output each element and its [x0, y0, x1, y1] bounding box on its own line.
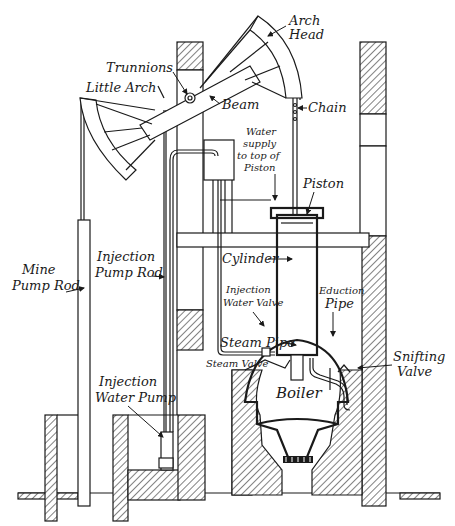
svg-text:to top of: to top of [237, 150, 282, 161]
svg-text:Pipe: Pipe [324, 296, 354, 311]
svg-text:Injection: Injection [98, 374, 157, 389]
injection-supply-pipe [218, 180, 275, 356]
label-cylinder: Cylinder [222, 251, 292, 266]
mine-pump-rod [78, 100, 90, 506]
svg-text:Mine: Mine [21, 262, 56, 277]
svg-text:Pump Rod: Pump Rod [94, 265, 163, 280]
svg-text:Injection: Injection [225, 284, 271, 295]
svg-text:Chain: Chain [308, 100, 347, 115]
svg-text:Head: Head [288, 27, 324, 42]
svg-text:Trunnions: Trunnions [106, 60, 173, 75]
svg-text:Water: Water [246, 126, 277, 137]
svg-text:Snifting: Snifting [393, 349, 445, 364]
svg-text:Little Arch: Little Arch [85, 80, 156, 95]
svg-text:Injection: Injection [96, 249, 155, 264]
svg-text:Steam Pipe: Steam Pipe [220, 335, 295, 350]
svg-text:Water Valve: Water Valve [223, 297, 283, 308]
label-injection-pump-rod: Injection Pump Rod [94, 249, 164, 280]
floor-beam [177, 233, 369, 247]
piston-rod-chain [293, 98, 297, 215]
left-wall [45, 415, 57, 521]
right-pillar [360, 42, 386, 506]
svg-text:Water Pump: Water Pump [95, 390, 177, 405]
svg-text:Steam Valve: Steam Valve [206, 358, 269, 369]
svg-text:Boiler: Boiler [275, 384, 323, 402]
label-steam-pipe: Steam Pipe [220, 335, 296, 350]
label-steam-valve: Steam Valve [206, 358, 269, 369]
svg-text:Beam: Beam [221, 97, 259, 112]
svg-text:Valve: Valve [397, 364, 432, 379]
label-injection-water-valve: Injection Water Valve [223, 284, 283, 326]
label-little-arch: Little Arch [85, 80, 164, 98]
svg-text:Arch: Arch [288, 13, 320, 28]
label-boiler: Boiler [275, 384, 323, 402]
svg-text:supply: supply [243, 138, 277, 149]
svg-text:Piston: Piston [302, 176, 344, 191]
svg-text:Piston: Piston [243, 162, 276, 173]
label-chain: Chain [298, 100, 347, 115]
label-mine-pump-rod: Mine Pump Rod [11, 262, 84, 293]
svg-text:Eduction: Eduction [318, 285, 364, 296]
label-eduction-pipe: Eduction Pipe [318, 285, 364, 336]
newcomen-engine-diagram: Arch Head Trunnions Little Arch Beam Cha… [0, 0, 455, 526]
label-water-supply: Water supply to top of Piston [237, 126, 282, 200]
little-arch [80, 98, 155, 180]
